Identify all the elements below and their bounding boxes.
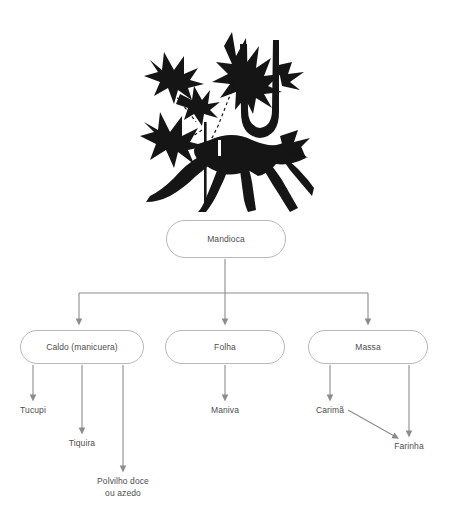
- leaf-tucupi: Tucupi: [20, 405, 46, 417]
- node-folha[interactable]: Folha: [165, 330, 285, 364]
- node-massa-label: Massa: [355, 342, 381, 352]
- leaf-tiquira: Tiquira: [69, 438, 95, 450]
- leaf-carima: Carimã: [316, 405, 344, 417]
- node-folha-label: Folha: [214, 342, 236, 352]
- node-caldo-label: Caldo (manicuera): [46, 342, 118, 352]
- leaf-polvilho: Polvilho doce ou azedo: [97, 476, 149, 499]
- edge-carima-to-farinha: [348, 410, 396, 437]
- diagram-page: Mandioca Caldo (manicuera) Folha Massa T…: [0, 0, 451, 523]
- node-mandioca-label: Mandioca: [207, 234, 245, 244]
- leaf-maniva: Maniva: [211, 405, 239, 417]
- node-mandioca[interactable]: Mandioca: [166, 220, 286, 258]
- connector-layer: [0, 0, 451, 523]
- node-caldo[interactable]: Caldo (manicuera): [20, 330, 144, 364]
- leaf-farinha: Farinha: [394, 441, 424, 453]
- node-massa[interactable]: Massa: [308, 330, 428, 364]
